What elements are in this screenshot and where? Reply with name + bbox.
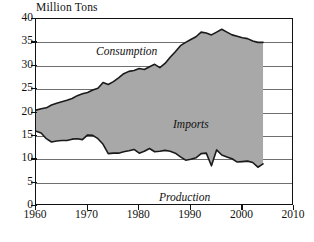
x-tick-mark-2000 bbox=[241, 205, 242, 210]
x-tick-mark-2010 bbox=[293, 205, 294, 210]
x-tick-mark-1990 bbox=[190, 205, 191, 210]
x-axis: 196019701980199020002010 bbox=[0, 0, 314, 242]
x-tick-mark-1980 bbox=[138, 205, 139, 210]
x-tick-mark-1970 bbox=[87, 205, 88, 210]
chart-container: Million Tons Consumption Imports Product… bbox=[0, 0, 314, 242]
x-tick-mark-1960 bbox=[35, 205, 36, 210]
